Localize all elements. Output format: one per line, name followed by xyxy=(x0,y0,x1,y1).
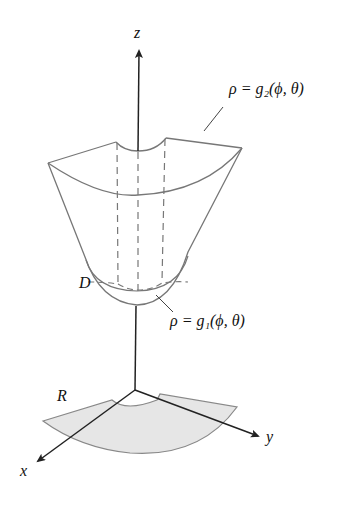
upper-surface-notch xyxy=(116,138,166,151)
z-axis-label: z xyxy=(134,24,140,42)
lower-surface-label: ρ = g₁(ϕ, θ) xyxy=(170,312,245,330)
hidden-line-right xyxy=(162,139,165,282)
solid-d-label: D xyxy=(79,274,91,292)
x-axis-label: x xyxy=(20,462,27,480)
region-r-label: R xyxy=(57,387,67,405)
upper-surface-back-left xyxy=(48,142,116,163)
z-axis-upper xyxy=(138,51,139,151)
upper-surface-front-arc xyxy=(48,148,242,195)
upper-surface-back-right xyxy=(166,138,242,148)
region-r-shape xyxy=(43,394,237,453)
upper-surface-label: ρ = g₂(ϕ, θ) xyxy=(229,80,304,98)
solid-d-left-side xyxy=(48,163,137,305)
leader-upper-surface xyxy=(204,107,223,131)
solid-d-right-side xyxy=(137,148,242,305)
diagram-canvas xyxy=(0,0,357,505)
leader-lower-surface xyxy=(156,295,173,312)
z-axis-lower xyxy=(135,306,136,390)
y-axis-label: y xyxy=(266,428,273,446)
hidden-line-left xyxy=(117,143,118,284)
